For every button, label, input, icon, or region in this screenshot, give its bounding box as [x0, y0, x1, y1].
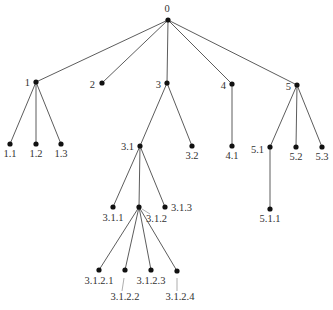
node-label-5.1: 5.1	[251, 144, 264, 155]
edge-3.1-to-3.1.2	[139, 146, 140, 207]
node-labels: 0123451.11.21.33.13.24.15.15.25.33.1.13.…	[3, 3, 328, 302]
tree-diagram: 0123451.11.21.33.13.24.15.15.25.33.1.13.…	[0, 0, 333, 310]
node-label-3: 3	[156, 79, 161, 90]
node-dot-1	[33, 79, 38, 84]
node-dot-5.3	[319, 144, 324, 149]
node-dot-5.2	[293, 144, 298, 149]
node-label-3.1.2: 3.1.2	[146, 213, 167, 224]
node-dot-3	[164, 80, 169, 85]
node-dot-5	[294, 82, 299, 87]
edge-0-to-5	[168, 20, 297, 85]
tree-nodes	[7, 17, 324, 273]
edge-0-to-3	[167, 20, 168, 83]
edge-1-to-1.3	[36, 82, 61, 144]
node-dot-3.1	[137, 143, 142, 148]
node-label-1.2: 1.2	[29, 148, 42, 159]
node-dot-4	[229, 81, 234, 86]
node-label-5.3: 5.3	[315, 151, 328, 162]
edge-3-to-3.2	[167, 83, 192, 146]
node-label-3.1.3: 3.1.3	[171, 202, 192, 213]
node-dot-4.1	[229, 143, 234, 148]
node-label-4.1: 4.1	[225, 150, 238, 161]
edge-3.1-to-3.1.3	[140, 146, 165, 207]
edge-5-to-5.1	[270, 85, 297, 147]
node-dot-3.1.3	[162, 204, 167, 209]
node-label-1: 1	[25, 77, 30, 88]
node-dot-1.3	[58, 141, 63, 146]
node-dot-3.1.2.1	[96, 267, 101, 272]
node-label-4: 4	[221, 80, 227, 91]
node-label-3.1.2.3: 3.1.2.3	[137, 275, 166, 286]
leader-line-3.1.2.2	[122, 278, 124, 291]
node-label-3.1.2.4: 3.1.2.4	[166, 291, 196, 302]
node-dot-3.1.2.2	[122, 267, 127, 272]
edge-3.1-to-3.1.1	[113, 146, 140, 207]
node-label-3.1.2.2: 3.1.2.2	[111, 291, 140, 302]
edge-0-to-1	[36, 20, 168, 82]
node-dot-2	[99, 80, 104, 85]
edge-3-to-3.1	[140, 83, 167, 146]
node-dot-1.1	[7, 141, 12, 146]
edge-0-to-4	[168, 20, 232, 84]
tree-edges	[10, 20, 322, 271]
node-label-1.1: 1.1	[3, 148, 16, 159]
node-label-3.1: 3.1	[121, 141, 134, 152]
node-label-3.1.1: 3.1.1	[103, 212, 124, 223]
edge-1-to-1.1	[10, 82, 36, 144]
edge-0-to-2	[102, 20, 168, 83]
node-dot-3.1.2.4	[174, 268, 179, 273]
node-label-1.3: 1.3	[54, 148, 67, 159]
edge-5-to-5.2	[296, 85, 297, 147]
edge-3.1.2-to-3.1.2.2	[125, 207, 139, 270]
node-dot-3.1.1	[110, 204, 115, 209]
node-label-5.1.1: 5.1.1	[260, 213, 281, 224]
node-dot-3.1.2	[136, 204, 141, 209]
node-dot-3.2	[189, 143, 194, 148]
node-dot-5.1	[267, 144, 272, 149]
node-label-5: 5	[286, 81, 291, 92]
node-dot-5.1.1	[267, 206, 272, 211]
node-dot-1.2	[33, 141, 38, 146]
edge-5-to-5.3	[297, 85, 322, 147]
node-label-3.1.2.1: 3.1.2.1	[85, 275, 114, 286]
node-label-2: 2	[90, 79, 95, 90]
node-dot-3.1.2.3	[148, 267, 153, 272]
node-label-5.2: 5.2	[289, 151, 302, 162]
node-dot-0	[165, 17, 170, 22]
node-label-0: 0	[164, 3, 169, 14]
node-label-3.2: 3.2	[185, 150, 198, 161]
